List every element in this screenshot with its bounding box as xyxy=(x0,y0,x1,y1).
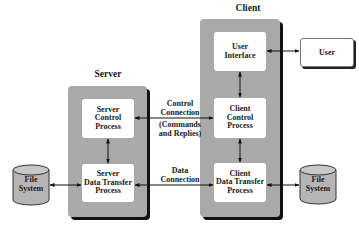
control-connection-line2: Connection xyxy=(150,109,210,118)
control-connection-note: (Commands and Replies) xyxy=(150,121,210,138)
file-system-right-label: File System xyxy=(300,176,336,193)
file-system-left-label: File System xyxy=(13,176,49,193)
fs-left-line2: System xyxy=(13,185,49,194)
data-connection-line2: Connection xyxy=(150,176,210,185)
control-connection-label: Control Connection xyxy=(150,100,210,117)
data-connection-label: Data Connection xyxy=(150,167,210,184)
control-note-line2: and Replies) xyxy=(150,130,210,139)
fs-right-line2: System xyxy=(300,185,336,194)
